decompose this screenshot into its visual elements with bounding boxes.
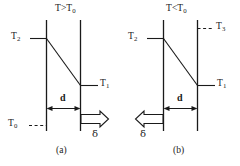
panel-a-condition-label: T>T0 bbox=[55, 4, 76, 14]
panel-a-t0-label: T0 bbox=[8, 119, 17, 129]
panel-b-t2-label: T2 bbox=[128, 32, 137, 42]
panel-b-thickness-dimension bbox=[164, 106, 198, 111]
panel-a-t2-label: T2 bbox=[11, 32, 20, 42]
panel-b-caption: (b) bbox=[173, 146, 184, 156]
panel-a-thickness-dimension bbox=[47, 106, 81, 111]
panel-b-temperature-profile bbox=[164, 39, 198, 86]
panel-b-delta-label: δ bbox=[140, 129, 146, 139]
panel-a-caption: (a) bbox=[56, 146, 67, 156]
panel-a-t1-label: T1 bbox=[100, 79, 109, 89]
figure-container: T>T0 T2 T1 T0 d δ (a) T<T0 T2 T3 T1 d δ … bbox=[0, 0, 240, 166]
panel-b-delta-arrow-left bbox=[136, 111, 164, 127]
diagram-canvas bbox=[0, 0, 240, 166]
panel-b-thickness-label: d bbox=[177, 93, 183, 103]
panel-b bbox=[136, 20, 216, 131]
panel-a-thickness-label: d bbox=[60, 93, 66, 103]
panel-a-delta-label: δ bbox=[92, 129, 98, 139]
panel-a-delta-arrow-right bbox=[81, 111, 109, 127]
panel-a-temperature-profile bbox=[47, 39, 81, 86]
panel-a bbox=[29, 20, 109, 131]
panel-b-condition-label: T<T0 bbox=[166, 4, 187, 14]
panel-b-t3-label: T3 bbox=[216, 22, 225, 32]
panel-b-t1-label: T1 bbox=[217, 79, 226, 89]
